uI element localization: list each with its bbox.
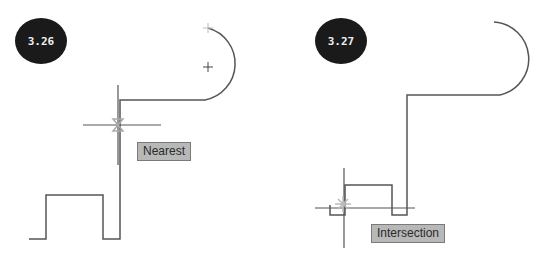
snap-tooltip: Intersection xyxy=(371,224,445,243)
drawing-canvas xyxy=(273,0,546,259)
figure-3-27: 3.27 Intersection xyxy=(273,0,546,259)
figure-badge: 3.26 xyxy=(15,18,67,64)
polyline-path xyxy=(29,28,235,239)
center-mark-icon xyxy=(203,62,213,72)
intersection-snap-marker-icon xyxy=(335,196,351,212)
figure-badge: 3.27 xyxy=(315,18,367,64)
snap-tooltip: Nearest xyxy=(137,142,191,161)
start-point-icon xyxy=(203,23,213,33)
figure-3-26: 3.26 Nearest xyxy=(0,0,273,259)
